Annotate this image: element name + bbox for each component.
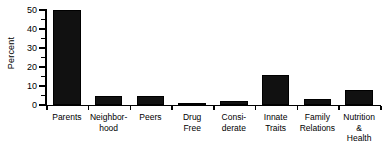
y-axis-tick-label: 10	[27, 81, 37, 91]
x-axis-tick	[171, 106, 173, 110]
bar	[345, 90, 373, 105]
x-axis-tick-label: Parents	[52, 112, 81, 123]
bar	[304, 99, 332, 105]
x-axis-tick	[88, 106, 90, 110]
x-axis-tick-label: Peers	[139, 112, 161, 123]
bar	[220, 101, 248, 105]
x-axis-tick-label: Family Relations	[300, 112, 335, 133]
x-axis-tick-label: Consi- derate	[222, 112, 247, 133]
x-axis-tick-label: Innate Traits	[264, 112, 288, 133]
x-axis-tick	[130, 106, 132, 110]
y-axis-tick-label: 20	[27, 62, 37, 72]
x-axis-tick-labels: ParentsNeighbor- hoodPeersDrug FreeConsi…	[0, 112, 385, 152]
x-axis-tick	[297, 106, 299, 110]
x-axis-tick	[255, 106, 257, 110]
x-axis-tick	[46, 106, 48, 110]
x-axis-tick-label: Neighbor- hood	[90, 112, 127, 133]
bar	[137, 96, 165, 106]
bar	[262, 75, 290, 105]
x-axis-tick	[380, 106, 382, 110]
bar	[178, 103, 206, 105]
x-axis-tick	[213, 106, 215, 110]
plot-area	[46, 10, 380, 105]
x-axis-tick-label: Nutrition & Health	[343, 112, 375, 144]
y-axis-tick-label: 50	[27, 5, 37, 15]
bar	[53, 10, 81, 105]
x-axis-ticks	[0, 106, 385, 111]
bar	[95, 96, 123, 106]
x-axis-tick-label: Drug Free	[183, 112, 201, 133]
y-axis-tick-label: 30	[27, 43, 37, 53]
bar-chart: Percent 01020304050 ParentsNeighbor- hoo…	[0, 0, 385, 152]
y-axis-tick-label: 40	[27, 24, 37, 34]
x-axis-tick	[338, 106, 340, 110]
